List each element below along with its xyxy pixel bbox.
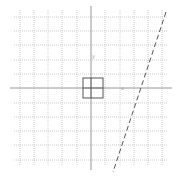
dashed-line [113,12,166,172]
axis-label: x [121,85,124,91]
axis-label: y [92,53,95,60]
coordinate-plane: yx [0,0,182,184]
axis-labels: yx [92,53,124,91]
